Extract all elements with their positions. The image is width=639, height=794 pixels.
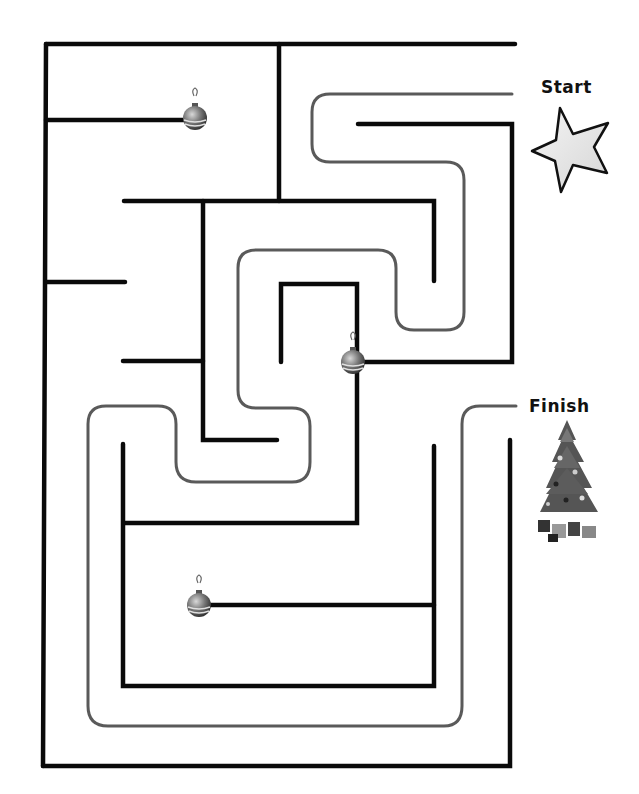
star-icon bbox=[532, 108, 608, 192]
wall-middle-top bbox=[124, 201, 434, 281]
christmas-tree-icon bbox=[538, 420, 598, 542]
wall-inner-l bbox=[203, 201, 277, 440]
ornament-icon bbox=[183, 88, 207, 130]
solution-path bbox=[88, 94, 516, 726]
ornament-icon bbox=[187, 575, 211, 617]
ornament-icon bbox=[341, 332, 365, 374]
wall-bottom-box bbox=[123, 444, 434, 686]
finish-label: Finish bbox=[529, 396, 590, 416]
wall-outer-left bbox=[43, 44, 46, 766]
start-label: Start bbox=[541, 77, 592, 97]
